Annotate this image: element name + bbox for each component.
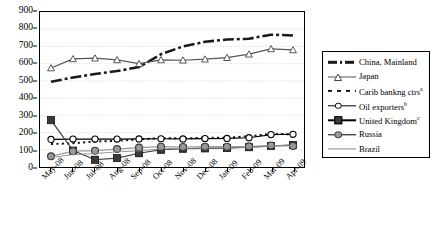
data-point (246, 143, 253, 150)
legend-item-oil-exporters[interactable]: Oil exportersb (327, 99, 426, 114)
data-point (48, 136, 54, 142)
data-point (224, 135, 230, 141)
data-point (290, 131, 296, 137)
legend-swatch (327, 85, 357, 98)
y-axis: 0100200300400500600700800900 (0, 11, 36, 168)
y-axis-tick-label: 100 (19, 146, 33, 156)
legend-swatch (327, 143, 357, 156)
y-axis-tick-mark (33, 150, 37, 151)
legend-line (328, 61, 356, 63)
legend-item-japan[interactable]: Japan (327, 70, 426, 85)
y-axis-tick-label: 200 (19, 128, 33, 138)
data-point (202, 136, 208, 142)
legend-footnote-marker: c (417, 115, 420, 121)
data-point (136, 144, 143, 151)
data-point (158, 136, 164, 142)
y-axis-tick-mark (33, 98, 37, 99)
data-point (47, 117, 54, 124)
legend-item-brazil[interactable]: Brazil (327, 142, 426, 157)
data-point (70, 148, 77, 155)
legend-marker (334, 117, 342, 125)
y-axis-tick-mark (33, 133, 37, 134)
y-axis-tick-mark (33, 80, 37, 81)
data-point (48, 65, 55, 71)
legend-line (328, 120, 356, 121)
chart-figure: 0100200300400500600700800900 May-08Jun-0… (0, 0, 433, 229)
legend-line (328, 105, 356, 106)
data-point (114, 136, 120, 142)
series-russia (48, 142, 297, 160)
y-axis-tick-mark (33, 11, 37, 12)
data-point (180, 136, 186, 142)
x-axis: May-08Jun-08Jul-08Aug-08Sep-08Oct-08Nov-… (39, 168, 305, 229)
legend-marker (335, 103, 342, 110)
y-axis-tick-label: 500 (19, 76, 33, 86)
data-point (268, 132, 274, 138)
data-point (246, 135, 252, 141)
y-axis-tick-mark (33, 63, 37, 64)
legend-marker (334, 131, 342, 139)
y-axis-tick-label: 400 (19, 93, 33, 103)
legend-item-carib-bankng-ctrs[interactable]: Carib bankng ctrsa (327, 84, 426, 99)
legend-label: Oil exportersb (357, 101, 407, 111)
chart-legend: China, MainlandJapanCarib bankng ctrsaOi… (322, 51, 430, 158)
y-axis-tick-mark (33, 28, 37, 29)
legend-label: Russia (357, 130, 382, 139)
legend-label: Carib bankng ctrsa (357, 86, 423, 96)
legend-item-united-kingdom[interactable]: United Kingdomc (327, 113, 426, 128)
data-point (70, 136, 76, 142)
legend-line (328, 90, 356, 92)
data-point (202, 143, 209, 150)
y-axis-tick-mark (33, 45, 37, 46)
legend-item-russia[interactable]: Russia (327, 128, 426, 143)
legend-swatch (327, 70, 357, 83)
data-point (180, 144, 187, 151)
legend-swatch (327, 128, 357, 141)
data-series (40, 12, 304, 167)
data-point (136, 136, 142, 142)
series-oil-exporters (48, 131, 296, 142)
y-axis-tick-mark (33, 168, 37, 169)
legend-label: Brazil (357, 145, 380, 154)
data-point (268, 142, 275, 149)
y-axis-tick-label: 700 (19, 41, 33, 51)
series-united-kingdom (47, 117, 296, 164)
legend-swatch (327, 99, 357, 112)
y-axis-tick-label: 800 (19, 24, 33, 34)
legend-line (328, 134, 356, 135)
data-point (92, 136, 98, 142)
legend-footnote-marker: b (404, 101, 407, 107)
legend-label: China, Mainland (357, 58, 417, 67)
y-axis-tick-label: 300 (19, 111, 33, 121)
plot-area (39, 11, 305, 168)
legend-swatch (327, 114, 357, 127)
y-axis-tick-label: 900 (19, 6, 33, 16)
data-point (224, 143, 231, 150)
legend-label: United Kingdomc (357, 115, 420, 125)
legend-label: Japan (357, 72, 379, 81)
legend-marker (334, 68, 343, 86)
legend-footnote-marker: a (420, 86, 423, 92)
y-axis-tick-mark (33, 115, 37, 116)
y-axis-tick-label: 600 (19, 59, 33, 69)
legend-line (328, 149, 356, 150)
